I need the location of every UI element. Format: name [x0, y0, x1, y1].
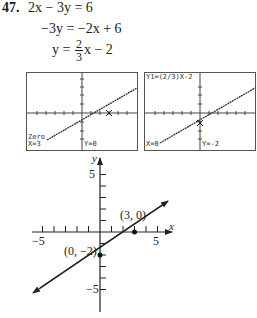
step3-suffix: x − 2 [84, 42, 113, 57]
y-axis-label: y [92, 152, 97, 164]
x-tick-label-neg5: −5 [32, 234, 45, 249]
problem-number: 47. [2, 0, 20, 16]
equation-step-1: 2x − 3y = 6 [28, 0, 93, 16]
point-y-intercept [98, 253, 103, 258]
calc-x-value: X=0 [146, 141, 159, 148]
fraction-denominator: 3 [75, 51, 83, 63]
fraction: 23 [75, 38, 83, 63]
calc-x-value: X=3 [28, 141, 41, 148]
line-graph: y x 5 −5 −5 5 (3, 0) (0, −2) [0, 150, 257, 318]
point-label-y-intercept: (0, −2) [64, 244, 97, 259]
calc-y-value: Y=0 [84, 141, 97, 148]
x-axis-label: x [169, 220, 174, 232]
y-tick-label-5: 5 [89, 167, 95, 182]
calc-y-value: Y=-2 [202, 141, 219, 148]
calculator-screen-zero: Zero X=3 Y=0 [26, 72, 138, 151]
step3-prefix: y = [52, 42, 74, 57]
point-label-x-intercept: (3, 0) [120, 208, 146, 223]
calc-equation-label: Y1=(2/3)X-2 [146, 74, 192, 81]
equation-step-2: −3y = −2x + 6 [41, 21, 122, 37]
calculator-screen-intercept: Y1=(2/3)X-2 X=0 Y=-2 [144, 72, 256, 151]
x-tick-label-5: 5 [153, 234, 159, 249]
y-tick-label-neg5: −5 [86, 282, 99, 297]
calc-graph-intercept [145, 73, 255, 150]
equation-step-3: y = 23x − 2 [52, 38, 113, 63]
point-x-intercept [132, 230, 137, 235]
